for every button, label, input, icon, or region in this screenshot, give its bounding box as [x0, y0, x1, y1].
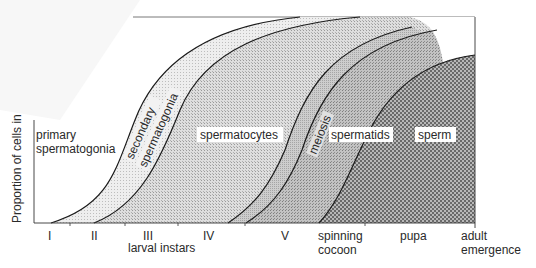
tick-label-cocoon: cocoon: [318, 243, 357, 257]
label-spermatocytes: spermatocytes: [200, 128, 278, 142]
tick-label-emergence: emergence: [461, 243, 521, 257]
tick-label-adult: adult: [461, 229, 488, 243]
x-group-label: larval instars: [128, 241, 195, 255]
label-spermatids: spermatids: [331, 128, 390, 142]
tick-label-pupa: pupa: [400, 229, 427, 243]
tick-label-II: II: [91, 229, 98, 243]
spermatogenesis-diagram: Proportion of cells in I II III IV V spi…: [0, 0, 536, 268]
tick-label-I: I: [48, 229, 51, 243]
tick-label-V: V: [281, 229, 289, 243]
tick-label-IV: IV: [203, 229, 214, 243]
label-primary-line1: primary: [36, 128, 76, 142]
tick-label-spinning: spinning: [318, 229, 363, 243]
label-sperm: sperm: [418, 128, 451, 142]
paper-shade: [0, 0, 140, 120]
label-primary-line2: spermatogonia: [36, 142, 116, 156]
y-axis-label: Proportion of cells in: [10, 114, 24, 223]
